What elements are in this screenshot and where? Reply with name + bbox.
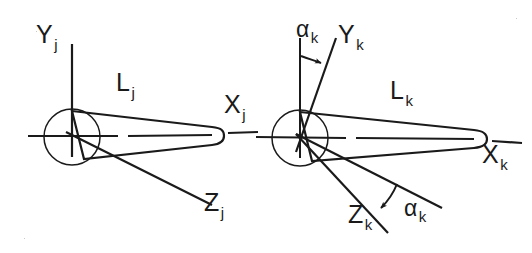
label-x-k-subscript: k: [500, 156, 508, 173]
diagram-svg: [0, 0, 532, 253]
label-y-k: Yk: [338, 22, 363, 47]
label-z-k-subscript: k: [365, 216, 373, 233]
label-alpha-k-bottom: αk: [404, 197, 425, 220]
axis-y-k: [296, 38, 336, 152]
label-l-j: Lj: [116, 70, 134, 95]
label-z-k: Zk: [348, 202, 371, 227]
scan-speckle: [36, 31, 37, 32]
figure-canvas: Yj Lj Xj Zj αk Yk Lk Xk Zk αk: [0, 0, 532, 253]
label-l-k-subscript: k: [405, 92, 413, 109]
label-y-j: Yj: [36, 22, 57, 47]
label-x-j: Xj: [224, 92, 245, 117]
label-l-k: Lk: [390, 78, 412, 103]
axis-x-j-center: [128, 135, 212, 136]
axis-x-k-center: [356, 138, 474, 139]
label-alpha-k-top-base: α: [296, 16, 310, 42]
label-alpha-k-bottom-subscript: k: [419, 208, 427, 225]
label-x-j-base: X: [224, 90, 241, 118]
label-y-k-base: Y: [338, 20, 355, 48]
label-alpha-k-top-subscript: k: [311, 29, 319, 46]
label-x-j-subscript: j: [242, 106, 245, 123]
angle-arc-alpha-bottom: [381, 184, 397, 208]
label-l-j-subscript: j: [131, 84, 134, 101]
label-l-k-base: L: [390, 76, 404, 104]
label-alpha-k-top: αk: [296, 18, 317, 41]
label-x-k: Xk: [482, 142, 507, 167]
label-z-j-subscript: j: [221, 204, 224, 221]
axis-x-j-right: [228, 132, 258, 133]
label-z-k-base: Z: [348, 200, 364, 228]
axis-z-j: [66, 132, 212, 205]
label-x-k-base: X: [482, 140, 499, 168]
scan-speckle: [24, 238, 25, 239]
scan-speckle: [516, 18, 517, 19]
label-y-j-subscript: j: [54, 36, 57, 53]
label-l-j-base: L: [116, 68, 130, 96]
label-z-j: Zj: [204, 190, 223, 215]
label-y-k-subscript: k: [356, 36, 364, 53]
label-alpha-k-bottom-base: α: [404, 195, 418, 221]
label-y-j-base: Y: [36, 20, 53, 48]
label-z-j-base: Z: [204, 188, 220, 216]
angle-arc-alpha-top: [301, 56, 321, 63]
